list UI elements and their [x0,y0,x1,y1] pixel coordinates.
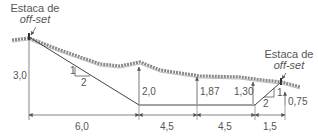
right-stake-label: Estaca de off-set [256,49,318,71]
left-slope-triangle [75,67,90,76]
width-4-label: 1,5 [263,121,277,132]
right-slope-rise: 1 [277,87,283,98]
width-3-label: 4,5 [218,121,232,132]
height-mid1-label: 2,0 [142,86,156,97]
width-dimension-line [29,105,285,120]
height-mid3-label: 1,30 [234,86,253,97]
height-left-label: 3,0 [13,70,27,81]
right-slope-run: 2 [263,98,269,109]
height-mid2-label: 1,87 [200,86,219,97]
width-1-label: 6,0 [75,121,89,132]
right-stake-label-line2: off-set [256,60,318,71]
left-stake-label-line2: off-set [2,14,68,25]
height-right-label: 0,75 [288,96,307,107]
left-stake-label: Estaca de off-set [2,3,68,25]
left-slope-run: 2 [81,77,87,88]
width-2-label: 4,5 [160,121,174,132]
left-slope-line [29,37,139,105]
left-slope-rise: 1 [70,65,76,76]
